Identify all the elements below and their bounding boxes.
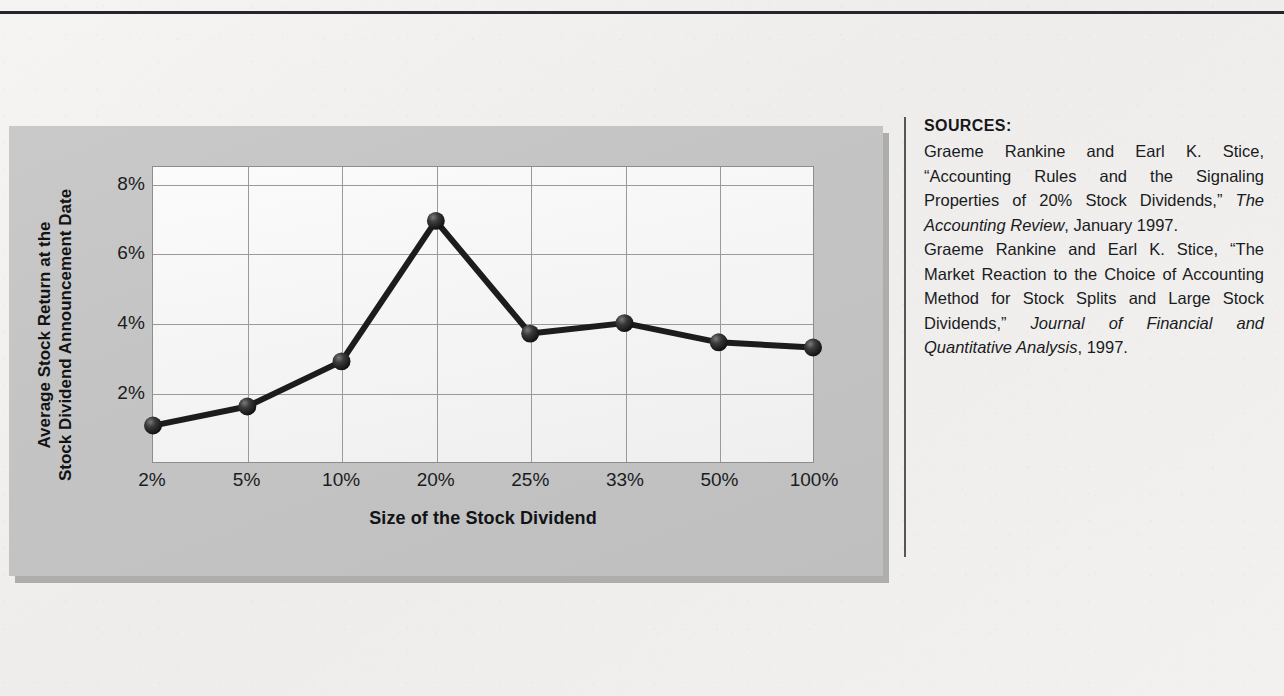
source-entry: Graeme Rankine and Earl K. Stice, “The M…	[924, 237, 1264, 360]
x-axis-title: Size of the Stock Dividend	[152, 508, 814, 529]
data-point-marker	[615, 314, 633, 332]
top-horizontal-rule	[0, 11, 1284, 14]
source-text: Graeme Rankine and Earl K. Stice, “Accou…	[924, 142, 1264, 209]
line-series	[153, 167, 813, 462]
y-axis-tick-label: 2%	[117, 382, 145, 404]
data-point-marker	[710, 333, 728, 351]
source-text: , January 1997.	[1064, 216, 1178, 234]
x-axis-tick-label: 25%	[511, 469, 549, 491]
y-axis-title: Average Stock Return at the Stock Divide…	[34, 185, 76, 485]
data-point-marker	[427, 212, 445, 230]
x-axis-tick-label: 2%	[138, 469, 165, 491]
y-axis-title-line-2: Stock Dividend Announcement Date	[55, 185, 76, 485]
data-point-marker	[333, 352, 351, 370]
chart-panel: Average Stock Return at the Stock Divide…	[9, 126, 883, 576]
x-axis-tick-label: 10%	[322, 469, 360, 491]
x-axis-tick-label: 33%	[606, 469, 644, 491]
x-axis-tick-labels: 2%5%10%20%25%33%50%100%	[152, 469, 814, 499]
data-point-marker	[804, 339, 822, 357]
y-axis-tick-labels: 8%6%4%2%	[87, 166, 145, 463]
y-axis-tick-label: 4%	[117, 312, 145, 334]
source-text: , 1997.	[1077, 338, 1127, 356]
y-axis-tick-label: 6%	[117, 242, 145, 264]
y-axis-title-line-1: Average Stock Return at the	[34, 185, 55, 485]
column-divider	[904, 117, 906, 557]
plot-area	[152, 166, 814, 463]
data-point-marker	[144, 417, 162, 435]
x-axis-tick-label: 50%	[700, 469, 738, 491]
x-axis-tick-label: 20%	[417, 469, 455, 491]
source-entry: Graeme Rankine and Earl K. Stice, “Accou…	[924, 139, 1264, 237]
x-axis-tick-label: 100%	[790, 469, 839, 491]
x-axis-tick-label: 5%	[233, 469, 260, 491]
y-axis-tick-label: 8%	[117, 173, 145, 195]
sources-heading: SOURCES:	[924, 117, 1264, 135]
data-point-marker	[238, 398, 256, 416]
sources-column: SOURCES: Graeme Rankine and Earl K. Stic…	[924, 117, 1264, 360]
data-point-marker	[521, 325, 539, 343]
sources-body: Graeme Rankine and Earl K. Stice, “Accou…	[924, 139, 1264, 360]
